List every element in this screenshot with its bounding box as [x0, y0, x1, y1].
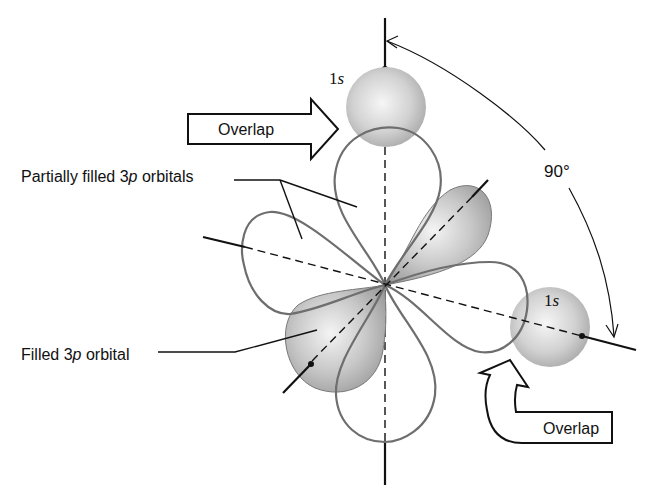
overlap-arrow-bottom: Overlap [480, 360, 612, 443]
top-1s-label: 1s [329, 69, 345, 88]
overlap-label-bottom: Overlap [543, 420, 599, 437]
arrowhead-icon [606, 324, 618, 337]
partial-3p-label: Partially filled 3p orbitals [21, 168, 194, 185]
right-1s-label: 1s [544, 291, 560, 310]
overlap-arrow-top: Overlap [188, 99, 338, 159]
overlap-label-top: Overlap [218, 121, 274, 138]
filled-3p-label: Filled 3p orbital [21, 346, 130, 363]
orbital-overlap-diagram: 90° 1s 1s Overlap Overlap Partially fill… [0, 0, 653, 499]
diagram-svg: 90° 1s 1s Overlap Overlap Partially fill… [0, 0, 653, 499]
arrowhead-icon [387, 36, 398, 48]
angle-label: 90° [544, 162, 570, 181]
